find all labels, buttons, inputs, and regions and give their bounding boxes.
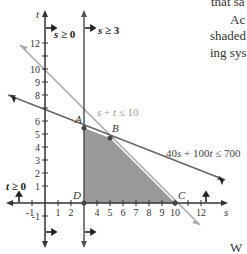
svg-text:7: 7 [134,207,139,218]
svg-text:-1: -1 [26,207,34,218]
label-sum-constraint: s + t ≤ 10 [97,106,139,118]
svg-text:8: 8 [35,90,40,101]
body-text-line: W [230,238,242,254]
svg-text:9: 9 [160,207,165,218]
svg-text:12: 12 [196,207,206,218]
arrow-up-icon [81,10,87,17]
body-text-line: ing sys [210,43,246,62]
svg-text:3: 3 [35,155,40,166]
s-axis-label: s [224,206,228,218]
svg-text:9: 9 [35,77,40,88]
arrow-down-icon [42,241,48,248]
label-cost-constraint: 40s + 100t ≤ 700 [166,147,241,159]
t-axis-labels: 12 10 9 8 6 5 4 3 2 1 -1 [30,38,40,222]
label-t-ge-0: t ≥ 0 [6,180,27,192]
svg-text:12: 12 [30,38,40,49]
arrow-up-icon [42,10,48,17]
svg-text:8: 8 [147,207,152,218]
label-s-ge-0: s ≥ 0 [53,28,76,40]
svg-text:B: B [112,122,119,134]
svg-text:10: 10 [30,64,40,75]
feasible-region [84,128,175,203]
svg-text:6: 6 [35,116,40,127]
svg-text:1: 1 [35,181,40,192]
s-axis-labels: -1 1 2 4 5 6 7 8 9 10 12 [26,207,206,218]
arrow-down-icon [81,241,87,248]
svg-text:C: C [178,189,186,201]
svg-text:2: 2 [35,168,40,179]
arrow-left-icon [6,200,13,206]
svg-text:2: 2 [69,207,74,218]
t-axis-label: t [36,8,40,20]
svg-text:6: 6 [121,207,126,218]
svg-text:A: A [74,113,82,125]
label-s-ge-3: s ≥ 3 [97,24,120,36]
svg-text:4: 4 [95,207,100,218]
svg-text:5: 5 [108,207,113,218]
svg-text:10: 10 [170,207,180,218]
svg-text:5: 5 [35,129,40,140]
svg-text:4: 4 [35,142,40,153]
svg-text:1: 1 [56,207,61,218]
svg-text:D: D [72,189,81,201]
